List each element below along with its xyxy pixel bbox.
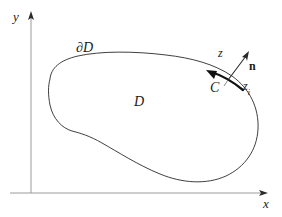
z-label: z (218, 47, 223, 59)
contour-label: C (210, 81, 219, 95)
z-i-label: zi (243, 80, 250, 95)
normal-label: n (249, 60, 256, 72)
domain-boundary-curve (49, 52, 259, 182)
contour-direction-arrowhead (206, 70, 217, 79)
boundary-script-d: D (83, 40, 93, 55)
normal-vector-n (228, 51, 249, 80)
boundary-label: ∂D (76, 41, 93, 55)
z-i-subscript: i (248, 88, 250, 97)
x-axis-label: x (263, 197, 269, 210)
math-diagram-figure: y x ∂D D z n C zi (0, 0, 282, 217)
z-i-base: z (243, 79, 248, 93)
z-leader-line (224, 80, 228, 86)
partial-symbol: ∂ (76, 40, 83, 55)
domain-label: D (134, 95, 144, 109)
y-axis (28, 11, 34, 193)
x-axis (10, 190, 268, 196)
y-axis-label: y (13, 10, 19, 23)
